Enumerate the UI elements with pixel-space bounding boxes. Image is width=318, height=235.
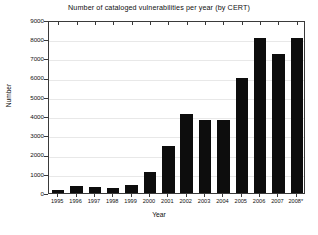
y-tick-label: 4000 [0,114,44,120]
y-tick-label: 5000 [0,95,44,101]
bars-layer [49,22,304,193]
x-tick-mark [131,194,132,197]
chart-title: Number of cataloged vulnerabilities per … [0,3,318,12]
bar [162,146,174,193]
bar [217,120,229,193]
bar [125,185,137,193]
bar [70,186,82,193]
y-tick-label: 9000 [0,18,44,24]
bar [199,120,211,193]
y-tick-label: 8000 [0,37,44,43]
y-tick-label: 2000 [0,152,44,158]
y-tick-label: 7000 [0,56,44,62]
bar [144,172,156,193]
chart-figure: Number of cataloged vulnerabilities per … [0,0,318,235]
y-tick-label: 1000 [0,172,44,178]
x-tick-mark [186,194,187,197]
x-tick-mark [241,194,242,197]
bar [254,38,266,193]
x-tick-mark [204,194,205,197]
x-tick-label: 2008* [285,198,307,204]
x-tick-mark [149,194,150,197]
bar [52,190,64,193]
x-axis-title: Year [0,211,318,218]
x-tick-mark [57,194,58,197]
bar [236,78,248,193]
y-tick-label: 6000 [0,75,44,81]
x-tick-mark [167,194,168,197]
x-tick-mark [222,194,223,197]
bar [180,114,192,193]
x-tick-mark [112,194,113,197]
x-tick-mark [277,194,278,197]
bar [107,188,119,193]
x-tick-mark [94,194,95,197]
x-tick-mark [76,194,77,197]
y-tick-label: 0 [0,191,44,197]
plot-area [48,21,305,194]
x-tick-mark [259,194,260,197]
y-tick-mark [44,194,48,195]
y-tick-label: 3000 [0,133,44,139]
bar [89,187,101,193]
x-tick-mark [296,194,297,197]
bar [272,54,284,193]
bar [291,38,303,193]
